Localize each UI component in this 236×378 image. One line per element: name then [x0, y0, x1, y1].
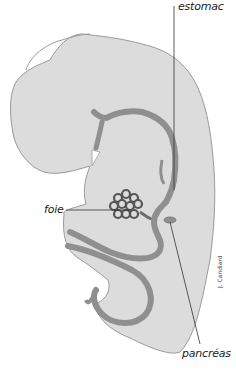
embryo-illustration [0, 0, 236, 378]
embryo-body [11, 34, 215, 353]
label-stomach: estomac [178, 0, 224, 13]
illustrator-credit: J. Candiard [216, 255, 223, 288]
label-liver: foie [44, 203, 64, 216]
label-pancreas: pancréas [182, 347, 231, 360]
liver [110, 190, 142, 218]
